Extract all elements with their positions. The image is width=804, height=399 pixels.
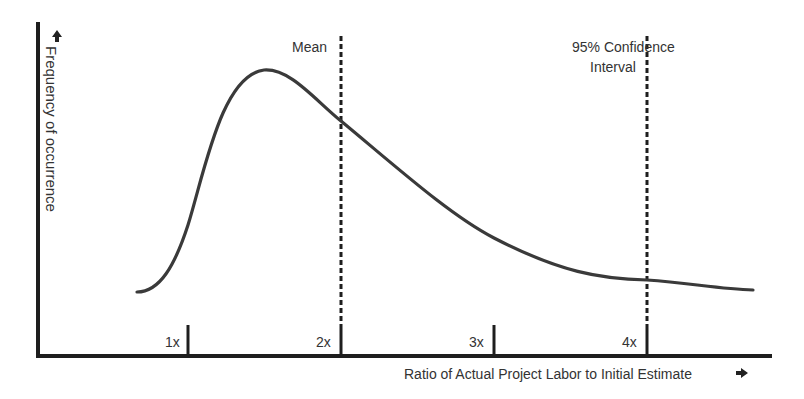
x-axis-label: Ratio of Actual Project Labor to Initial… bbox=[404, 366, 692, 382]
chart-canvas bbox=[0, 0, 804, 399]
mean-label: Mean bbox=[292, 39, 327, 55]
y-axis-label: Frequency of occurrence bbox=[43, 46, 60, 212]
tick-label-1x: 1x bbox=[165, 334, 180, 350]
tick-label-4x: 4x bbox=[622, 334, 637, 350]
ci-label-line2: Interval bbox=[590, 59, 636, 75]
distribution-curve bbox=[137, 70, 753, 292]
tick-label-3x: 3x bbox=[469, 334, 484, 350]
ci-label-line1: 95% Confidence bbox=[572, 39, 675, 55]
arrow-right-icon bbox=[736, 368, 748, 378]
tick-label-2x: 2x bbox=[316, 334, 331, 350]
arrow-up-icon bbox=[52, 30, 62, 42]
